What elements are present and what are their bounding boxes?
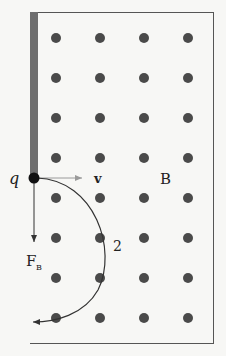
field-dot xyxy=(183,273,193,283)
field-dot xyxy=(95,313,105,323)
field-dot xyxy=(139,33,149,43)
field-dot xyxy=(139,273,149,283)
field-dot xyxy=(51,153,61,163)
field-dot xyxy=(139,113,149,123)
field-label: B xyxy=(160,170,171,188)
barrier-plate xyxy=(30,12,38,178)
field-dot xyxy=(95,33,105,43)
field-dot xyxy=(95,193,105,203)
particle-path-arc xyxy=(33,178,105,322)
diagram-canvas: q v B F B 2 xyxy=(0,0,226,356)
field-dot xyxy=(183,33,193,43)
field-dot xyxy=(51,33,61,43)
field-dot xyxy=(183,153,193,163)
force-label-subscript: B xyxy=(36,263,42,272)
path-label: 2 xyxy=(113,238,122,254)
field-dot xyxy=(139,153,149,163)
force-label: F xyxy=(26,252,36,270)
field-dot xyxy=(183,313,193,323)
field-dot xyxy=(139,313,149,323)
field-dot xyxy=(183,193,193,203)
field-dot xyxy=(51,273,61,283)
field-dot xyxy=(51,233,61,243)
velocity-label: v xyxy=(93,171,102,186)
field-dot xyxy=(95,113,105,123)
field-dot xyxy=(51,193,61,203)
charge-particle xyxy=(29,173,40,184)
field-dot xyxy=(51,73,61,83)
field-dot xyxy=(95,153,105,163)
charge-label: q xyxy=(9,169,19,188)
field-dot xyxy=(183,233,193,243)
field-dot xyxy=(183,73,193,83)
field-dot xyxy=(51,113,61,123)
field-dot xyxy=(139,73,149,83)
field-dot xyxy=(139,233,149,243)
field-dot xyxy=(183,113,193,123)
field-dot xyxy=(95,73,105,83)
field-dot xyxy=(139,193,149,203)
